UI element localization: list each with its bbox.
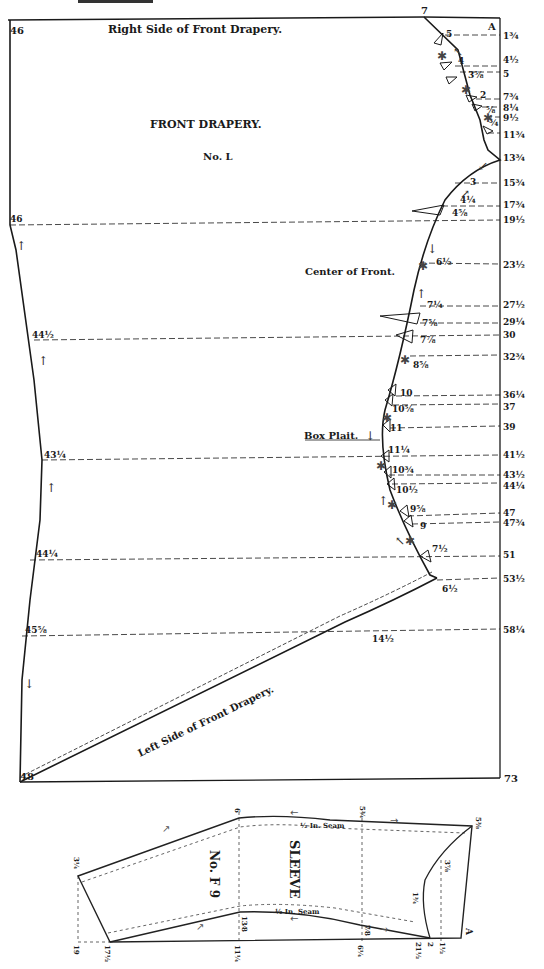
svg-text:5⅜: 5⅜ <box>474 817 483 830</box>
svg-text:7⅝: 7⅝ <box>422 318 438 328</box>
sleeve-title: SLEEVE <box>287 840 302 898</box>
seam-top: ½ In. Seam <box>300 821 345 830</box>
svg-text:6: 6 <box>233 808 242 813</box>
svg-text:51: 51 <box>503 550 516 560</box>
svg-text:30: 30 <box>503 330 516 340</box>
left-measure-43-quarter: 43¼ <box>44 450 67 460</box>
svg-text:47: 47 <box>503 508 516 518</box>
svg-text:4⅝: 4⅝ <box>452 208 468 218</box>
bottom-right-measure: 73 <box>504 773 518 784</box>
left-measure-44-half: 44½ <box>32 330 54 340</box>
svg-text:3⅞: 3⅞ <box>443 860 452 873</box>
svg-text:←: ← <box>290 913 298 924</box>
right-scale: 1¾ 4½ 5 7¾ 8¼ 9½ 11¾ 13¾ 15¾ 17¾ 19½ 23½… <box>503 31 526 635</box>
svg-text:↑: ↑ <box>16 239 26 253</box>
svg-text:✱: ✱ <box>483 111 493 125</box>
svg-text:✱: ✱ <box>461 83 471 97</box>
svg-text:↖: ↖ <box>453 45 463 59</box>
svg-text:5: 5 <box>446 29 452 39</box>
sleeve-number: No. F 9 <box>207 850 221 898</box>
svg-text:11¼: 11¼ <box>233 945 242 963</box>
svg-text:↑: ↑ <box>46 481 56 495</box>
svg-text:43½: 43½ <box>503 470 525 480</box>
svg-text:58¼: 58¼ <box>503 625 526 635</box>
svg-text:11¼: 11¼ <box>388 445 411 455</box>
svg-text:↑: ↑ <box>416 287 426 301</box>
left-side-label: Left Side of Front Drapery. <box>136 683 275 758</box>
svg-text:→: → <box>380 924 388 935</box>
svg-text:19½: 19½ <box>503 215 525 225</box>
svg-text:8⅝: 8⅝ <box>413 360 429 370</box>
svg-text:✱: ✱ <box>418 259 428 273</box>
svg-text:9: 9 <box>420 521 426 531</box>
svg-text:↓: ↓ <box>365 429 375 443</box>
sleeve-corner-a: A <box>464 927 474 936</box>
svg-text:6½: 6½ <box>442 584 458 594</box>
center-front-label: Center of Front. <box>305 266 395 277</box>
svg-text:14½: 14½ <box>372 634 394 644</box>
svg-text:6½: 6½ <box>436 257 452 267</box>
svg-text:10¾: 10¾ <box>392 465 415 475</box>
svg-text:↗: ↗ <box>196 921 204 932</box>
svg-text:4½: 4½ <box>503 55 519 65</box>
svg-text:→: → <box>390 815 398 826</box>
svg-text:✱: ✱ <box>387 498 397 512</box>
svg-text:5¾: 5¾ <box>358 806 367 819</box>
svg-text:53½: 53½ <box>503 574 525 584</box>
svg-text:↗: ↗ <box>162 823 170 834</box>
svg-text:41½: 41½ <box>503 450 525 460</box>
svg-text:✱: ✱ <box>400 353 410 367</box>
svg-text:✱: ✱ <box>382 411 392 425</box>
svg-text:2: 2 <box>480 90 486 100</box>
svg-text:✱: ✱ <box>376 459 386 473</box>
svg-text:10½: 10½ <box>396 485 418 495</box>
svg-text:8¼: 8¼ <box>503 103 519 113</box>
svg-text:↙: ↙ <box>478 159 488 173</box>
svg-text:7⅞: 7⅞ <box>420 335 436 345</box>
left-measure-44-quarter: 44¼ <box>36 549 59 559</box>
svg-text:↓: ↓ <box>24 677 34 691</box>
svg-text:29¼: 29¼ <box>503 317 526 327</box>
svg-text:17½: 17½ <box>103 945 112 962</box>
svg-text:44¼: 44¼ <box>503 481 526 491</box>
piece-number: No. L <box>203 151 233 162</box>
svg-text:7⁄8: 7⁄8 <box>363 925 372 936</box>
svg-text:23½: 23½ <box>503 260 525 270</box>
svg-text:1¾: 1¾ <box>411 892 420 905</box>
corner-a: A <box>487 21 496 32</box>
svg-text:3: 3 <box>470 177 476 187</box>
box-plait-label: Box Plait. <box>304 430 358 441</box>
svg-text:13¾: 13¾ <box>503 153 526 163</box>
svg-text:↖: ↖ <box>395 534 405 548</box>
svg-text:32¾: 32¾ <box>503 352 526 362</box>
svg-text:39: 39 <box>503 422 516 432</box>
left-measure-45-5-8: 45⅝ <box>25 625 48 635</box>
front-drapery-piece <box>8 17 500 782</box>
svg-text:✱: ✱ <box>405 534 415 548</box>
right-side-label: Right Side of Front Drapery. <box>108 23 282 36</box>
sleeve-labels: SLEEVE No. F 9 ½ In. Seam ½ In. Seam A 3… <box>72 806 483 963</box>
svg-text:17¾: 17¾ <box>503 200 526 210</box>
svg-text:6¼: 6¼ <box>356 945 365 958</box>
svg-text:↑: ↑ <box>38 354 48 368</box>
pattern-diagram: 46 Right Side of Front Drapery. FRONT DR… <box>0 0 544 969</box>
svg-text:27½: 27½ <box>503 300 525 310</box>
svg-text:10: 10 <box>400 388 413 398</box>
top-left-measure: 46 <box>10 25 24 36</box>
svg-text:36¼: 36¼ <box>503 390 526 400</box>
svg-text:15¾: 15¾ <box>503 178 526 188</box>
svg-text:2: 2 <box>426 942 435 947</box>
svg-text:5: 5 <box>503 69 509 79</box>
svg-text:9½: 9½ <box>503 113 519 123</box>
svg-text:1½: 1½ <box>438 942 447 954</box>
svg-text:←: ← <box>290 807 298 818</box>
svg-text:7¼: 7¼ <box>427 300 443 310</box>
svg-text:✱: ✱ <box>437 49 447 63</box>
svg-text:13⁄8: 13⁄8 <box>240 916 249 932</box>
piece-title: FRONT DRAPERY. <box>150 118 262 131</box>
sleeve-piece <box>78 812 472 942</box>
svg-text:7¾: 7¾ <box>503 92 519 102</box>
svg-text:↑: ↑ <box>378 494 388 508</box>
svg-text:7½: 7½ <box>432 544 448 554</box>
svg-text:37: 37 <box>503 402 516 412</box>
